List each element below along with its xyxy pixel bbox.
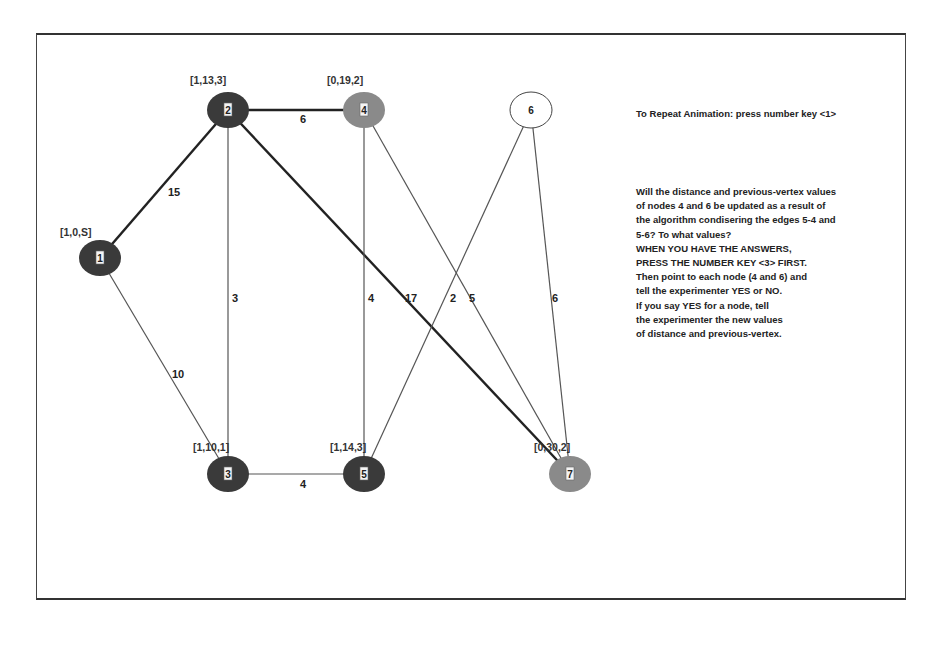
question-line: the experimenter the new values xyxy=(636,313,896,327)
question-line: of distance and previous-vertex. xyxy=(636,327,896,341)
edge-weight-label: 10 xyxy=(172,368,184,380)
node-id-label: 6 xyxy=(528,105,534,116)
question-line: the algorithm condisering the edges 5-4 … xyxy=(636,213,896,227)
node-id-label: 4 xyxy=(361,105,367,116)
edge-1-2 xyxy=(100,110,228,258)
node-1[interactable]: 1[1,0,S] xyxy=(60,226,121,276)
edge-weight-label: 4 xyxy=(368,292,375,304)
node-state-tag: [1,0,S] xyxy=(60,226,92,238)
question-line: If you say YES for a node, tell xyxy=(636,299,896,313)
edge-labels-layer: 1561031745246 xyxy=(168,113,558,490)
edge-weight-label: 4 xyxy=(300,478,307,490)
question-text: Will the distance and previous-vertex va… xyxy=(636,185,896,341)
edge-weight-label: 6 xyxy=(300,113,306,125)
node-id-label: 3 xyxy=(225,469,231,480)
node-6[interactable]: 6 xyxy=(510,92,552,128)
question-line: PRESS THE NUMBER KEY <3> FIRST. xyxy=(636,256,896,270)
node-state-tag: [1,10,1] xyxy=(193,441,229,453)
edge-2-7 xyxy=(228,110,570,474)
edge-weight-label: 15 xyxy=(168,186,180,198)
instruction-panel: To Repeat Animation: press number key <1… xyxy=(636,108,896,119)
question-line: tell the experimenter YES or NO. xyxy=(636,284,896,298)
nodes-layer: 1[1,0,S]2[1,13,3]3[1,10,1]4[0,19,2]5[1,1… xyxy=(60,74,591,492)
node-5[interactable]: 5[1,14,3] xyxy=(330,441,385,492)
edge-weight-label: 2 xyxy=(450,292,456,304)
node-state-tag: [0,30,2] xyxy=(534,441,570,453)
node-id-label: 7 xyxy=(567,469,573,480)
node-7[interactable]: 7[0,30,2] xyxy=(534,441,591,492)
edges-layer xyxy=(100,110,570,474)
edge-6-7 xyxy=(531,110,570,474)
question-line: of nodes 4 and 6 be updated as a result … xyxy=(636,199,896,213)
node-state-tag: [1,13,3] xyxy=(190,74,226,86)
edge-weight-label: 5 xyxy=(469,292,475,304)
edge-4-7 xyxy=(364,110,570,474)
node-id-label: 2 xyxy=(225,105,231,116)
question-line: Will the distance and previous-vertex va… xyxy=(636,185,896,199)
edge-5-6 xyxy=(364,110,531,474)
node-2[interactable]: 2[1,13,3] xyxy=(190,74,249,128)
question-line: 5-6? To what values? xyxy=(636,228,896,242)
repeat-animation-note: To Repeat Animation: press number key <1… xyxy=(636,108,896,119)
edge-weight-label: 6 xyxy=(552,292,558,304)
edge-weight-label: 3 xyxy=(232,292,238,304)
node-id-label: 1 xyxy=(97,253,103,264)
node-id-label: 5 xyxy=(361,469,367,480)
node-3[interactable]: 3[1,10,1] xyxy=(193,441,249,492)
question-line: WHEN YOU HAVE THE ANSWERS, xyxy=(636,242,896,256)
node-state-tag: [1,14,3] xyxy=(330,441,366,453)
node-state-tag: [0,19,2] xyxy=(327,74,363,86)
edge-weight-label: 17 xyxy=(405,292,417,304)
question-line: Then point to each node (4 and 6) and xyxy=(636,270,896,284)
node-4[interactable]: 4[0,19,2] xyxy=(327,74,385,128)
